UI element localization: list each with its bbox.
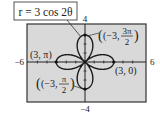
svg-text:2: 2	[125, 37, 130, 47]
svg-text:2: 2	[62, 85, 67, 95]
svg-text:): )	[134, 28, 139, 44]
svg-text:3π: 3π	[122, 26, 132, 36]
svg-text:π: π	[62, 74, 67, 84]
point-3-pi	[55, 60, 58, 63]
label-3-pi: (3, π)	[30, 49, 52, 61]
x-min-label: −6	[14, 57, 24, 67]
point-3-0	[112, 60, 115, 63]
polar-chart: r = 3 cos 2θ 4 −4 −6 6 (3, π) (3, 0) ( (…	[0, 0, 160, 118]
svg-text:(−3,: (−3,	[103, 30, 119, 42]
y-max-label: 4	[83, 14, 88, 24]
x-max-label: 6	[150, 57, 155, 67]
label-3-0: (3, 0)	[115, 65, 137, 77]
svg-text:): )	[70, 76, 75, 92]
equation-label: r = 3 cos 2θ	[18, 6, 73, 18]
y-min-label: −4	[80, 104, 90, 114]
point-neg3-3pi-half	[83, 33, 86, 36]
svg-text:(−3,: (−3,	[41, 78, 57, 90]
origin-point	[84, 61, 87, 64]
point-neg3-pi-half	[83, 87, 86, 90]
